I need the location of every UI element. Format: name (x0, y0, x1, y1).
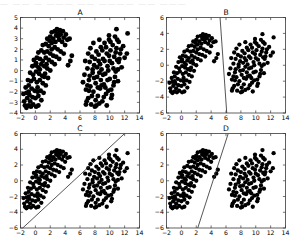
data-point (236, 62, 240, 66)
x-tick-label: 8 (239, 114, 243, 121)
data-point (209, 160, 213, 164)
data-point (106, 179, 110, 183)
data-point (234, 46, 238, 50)
data-point (107, 168, 111, 172)
data-point (199, 174, 203, 178)
data-point (251, 205, 255, 209)
data-point (271, 35, 275, 39)
data-point (260, 165, 264, 169)
data-point (203, 54, 207, 58)
data-point (88, 183, 92, 187)
data-point (84, 204, 88, 208)
x-tick-label: 0 (33, 114, 37, 121)
data-point (173, 79, 177, 83)
data-point (107, 153, 111, 157)
x-tick-label: 12 (267, 229, 275, 236)
data-point (261, 156, 265, 160)
data-point (113, 183, 117, 187)
data-point (61, 166, 65, 170)
data-point (253, 37, 257, 41)
data-point (210, 36, 214, 40)
data-point (102, 59, 107, 64)
data-point (114, 165, 118, 169)
data-point (43, 83, 48, 88)
data-point (188, 183, 192, 187)
panel-b: B−202468101214−6−4−20246 (155, 8, 290, 121)
x-tick-label: 12 (121, 229, 129, 236)
data-point (242, 167, 246, 171)
data-point (95, 94, 100, 99)
data-point (245, 70, 249, 74)
data-point (248, 172, 252, 176)
data-point (111, 177, 115, 181)
data-point (82, 72, 87, 77)
data-point (100, 164, 104, 168)
data-point (67, 36, 72, 41)
data-point (234, 57, 238, 61)
data-point (180, 173, 184, 177)
data-point (190, 174, 194, 178)
data-point (95, 176, 99, 180)
data-point (90, 178, 94, 182)
data-point (124, 51, 129, 56)
data-point (262, 62, 266, 66)
data-point (108, 164, 112, 168)
data-point (256, 197, 260, 201)
data-point (114, 46, 119, 51)
data-point (182, 89, 186, 93)
data-point (257, 62, 261, 66)
panel-title: C (77, 124, 82, 133)
x-tick-label: 8 (239, 229, 243, 236)
data-point (99, 186, 103, 190)
data-point (243, 180, 247, 184)
data-point (271, 50, 275, 54)
data-point (113, 74, 118, 79)
data-point (104, 45, 109, 50)
data-point (239, 201, 243, 205)
data-point (249, 191, 253, 195)
data-point (266, 61, 270, 65)
data-point (111, 66, 116, 71)
data-point (34, 173, 38, 177)
data-point (271, 151, 275, 155)
data-point (41, 195, 45, 199)
data-point (108, 157, 112, 161)
x-tick-label: 10 (252, 229, 260, 236)
data-point (242, 76, 246, 80)
data-point (116, 60, 121, 65)
data-point (64, 152, 68, 156)
data-point (39, 98, 44, 103)
data-point (239, 170, 243, 174)
data-point (245, 74, 249, 78)
panel-d: D−202468101214−6−4−20246 (155, 124, 290, 236)
data-point (227, 72, 231, 76)
data-point (199, 58, 203, 62)
data-point (109, 87, 114, 92)
y-tick-label: 0 (14, 177, 18, 184)
data-point (262, 71, 266, 75)
data-point (234, 67, 238, 71)
y-tick-label: −2 (155, 193, 164, 200)
data-point (91, 89, 96, 94)
data-point (265, 163, 269, 167)
data-point (107, 33, 112, 38)
panel-a: A−202468101214−4−3−2−1012345 (9, 8, 144, 121)
data-point (212, 59, 216, 63)
data-point (53, 157, 57, 161)
data-point (103, 191, 107, 195)
data-point (81, 187, 85, 191)
data-point (107, 53, 112, 58)
y-tick-label: −4 (9, 109, 18, 116)
x-tick-label: 14 (136, 229, 144, 236)
data-point (240, 205, 244, 209)
y-tick-label: 4 (160, 145, 164, 152)
data-point (85, 177, 89, 181)
data-point (262, 178, 266, 182)
data-point (26, 89, 31, 94)
data-point (185, 85, 189, 89)
data-point (50, 163, 54, 167)
data-point (90, 198, 94, 202)
data-point (263, 172, 267, 176)
x-tick-label: 4 (63, 229, 67, 236)
data-point (99, 83, 104, 88)
